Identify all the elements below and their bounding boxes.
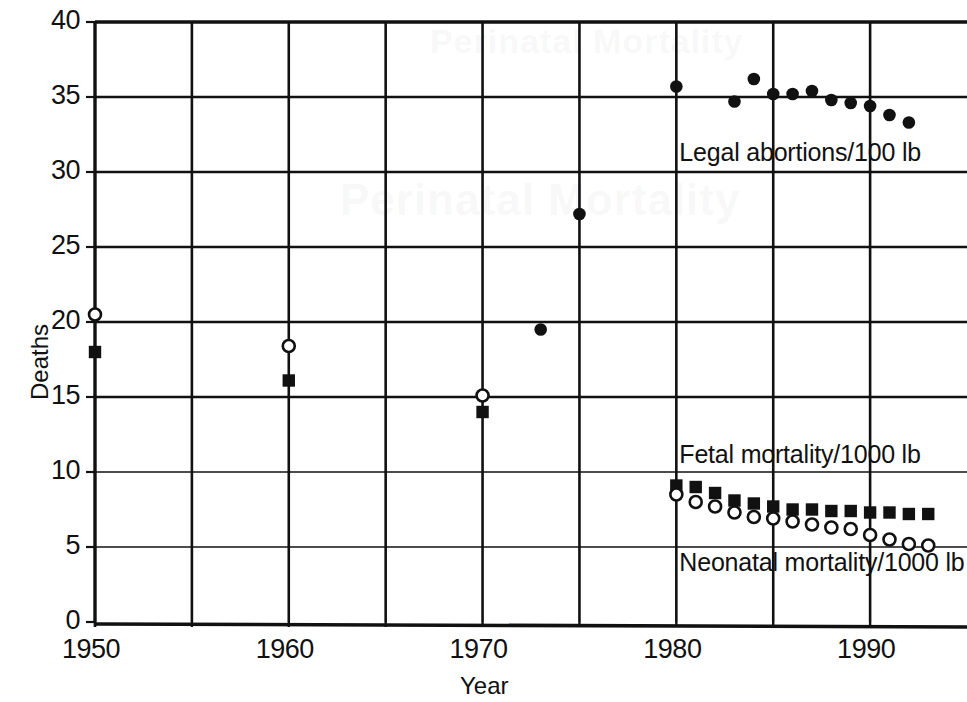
- x-axis-line: [95, 624, 967, 627]
- marker-filled-circle: [534, 323, 547, 336]
- y-tick-label-5: 5: [20, 530, 80, 561]
- marker-filled-circle: [844, 97, 857, 110]
- marker-filled-circle: [883, 109, 896, 122]
- marker-filled-square: [709, 487, 721, 499]
- marker-open-circle: [709, 501, 721, 513]
- y-tick-label-35: 35: [20, 80, 80, 111]
- x-tick-label-1980: 1980: [643, 634, 701, 665]
- x-tick-label-1970: 1970: [450, 634, 508, 665]
- marker-open-circle: [477, 390, 489, 402]
- marker-filled-square: [283, 374, 295, 386]
- y-tick-label-10: 10: [20, 455, 80, 486]
- marker-filled-circle: [903, 116, 916, 129]
- marker-filled-circle: [825, 94, 838, 107]
- marker-open-circle: [690, 496, 702, 508]
- marker-filled-circle: [864, 100, 877, 113]
- marker-filled-circle: [670, 80, 683, 93]
- marker-filled-square: [845, 505, 857, 517]
- plot-area: [0, 0, 967, 702]
- x-tick-label-1960: 1960: [256, 634, 314, 665]
- marker-open-circle: [283, 340, 295, 352]
- marker-filled-square: [922, 508, 934, 520]
- marker-open-circle: [670, 489, 682, 501]
- marker-open-circle: [89, 309, 101, 321]
- marker-open-circle: [787, 516, 799, 528]
- marker-open-circle: [864, 529, 876, 541]
- marker-filled-square: [864, 506, 876, 518]
- marker-filled-square: [767, 500, 779, 512]
- marker-filled-circle: [786, 88, 799, 101]
- x-tick-label-1990: 1990: [837, 634, 895, 665]
- marker-open-circle: [806, 519, 818, 531]
- series-annotation-0: Legal abortions/100 lb: [679, 138, 921, 167]
- series-0: [534, 73, 915, 336]
- marker-filled-square: [825, 505, 837, 517]
- axis-lines: [86, 22, 967, 627]
- marker-open-circle: [845, 523, 857, 535]
- y-tick-label-30: 30: [20, 155, 80, 186]
- series-1: [89, 346, 935, 520]
- marker-filled-circle: [728, 95, 741, 108]
- marker-filled-square: [806, 503, 818, 515]
- x-axis-title: Year: [460, 672, 509, 700]
- y-tick-label-40: 40: [20, 5, 80, 36]
- marker-open-circle: [767, 513, 779, 525]
- marker-filled-square: [690, 481, 702, 493]
- marker-filled-circle: [748, 73, 761, 86]
- chart-figure: Perinatal Mortality Perinatal Mortality …: [0, 0, 967, 702]
- marker-open-circle: [728, 507, 740, 519]
- marker-filled-circle: [767, 88, 780, 101]
- marker-filled-square: [728, 494, 740, 506]
- marker-open-circle: [883, 534, 895, 546]
- y-tick-label-0: 0: [20, 605, 80, 636]
- series-annotation-1: Fetal mortality/1000 lb: [679, 440, 920, 469]
- marker-open-circle: [748, 511, 760, 523]
- series-annotation-2: Neonatal mortality/1000 lb: [679, 548, 964, 577]
- x-tick-label-1950: 1950: [62, 634, 120, 665]
- marker-filled-square: [89, 346, 101, 358]
- marker-filled-square: [476, 406, 488, 418]
- y-axis-title: Deaths: [26, 324, 54, 400]
- y-tick-label-25: 25: [20, 230, 80, 261]
- marker-filled-square: [883, 506, 895, 518]
- marker-filled-square: [786, 503, 798, 515]
- marker-filled-square: [748, 497, 760, 509]
- marker-open-circle: [825, 522, 837, 534]
- marker-filled-circle: [573, 208, 586, 221]
- marker-filled-circle: [806, 85, 819, 98]
- marker-filled-square: [903, 508, 915, 520]
